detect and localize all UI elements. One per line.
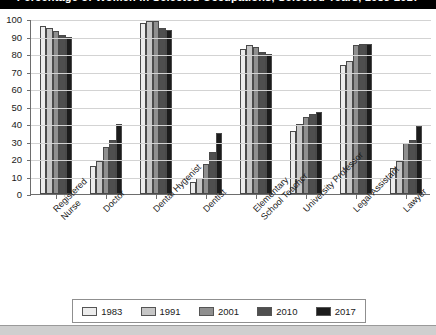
legend-label: 2001	[218, 306, 239, 317]
y-axis-tick-label: 0	[17, 190, 22, 200]
y-axis-tick-label: 50	[11, 103, 22, 113]
gridline	[31, 108, 431, 109]
legend-item[interactable]: 2001	[199, 306, 239, 317]
gridline	[31, 38, 431, 39]
y-axis-tick	[27, 73, 31, 74]
bar[interactable]	[66, 37, 72, 195]
gridline	[31, 178, 431, 179]
plot-wrapper: 0102030405060708090100	[0, 9, 436, 205]
y-axis-tick-label: 80	[11, 50, 22, 60]
gridline	[31, 73, 431, 74]
x-axis-tick	[406, 194, 407, 199]
bar[interactable]	[366, 44, 372, 195]
gridline	[31, 125, 431, 126]
legend-swatch-icon	[199, 307, 214, 316]
y-axis-tick-label: 10	[11, 173, 22, 183]
x-axis-tick	[256, 194, 257, 199]
gridline	[31, 20, 431, 21]
y-axis-tick-label: 60	[11, 85, 22, 95]
gridline	[31, 160, 431, 161]
y-axis-tick	[27, 178, 31, 179]
y-axis-labels: 0102030405060708090100	[0, 9, 26, 205]
y-axis-tick	[27, 143, 31, 144]
chart-title: Percentage of Women in Selected Occupati…	[0, 0, 436, 3]
legend-swatch-icon	[257, 307, 272, 316]
legend-label: 2017	[335, 306, 356, 317]
y-axis-tick	[27, 160, 31, 161]
legend-swatch-icon	[82, 307, 97, 316]
y-axis-tick	[27, 38, 31, 39]
legend-swatch-icon	[316, 307, 331, 316]
x-axis-tick	[356, 194, 357, 199]
y-axis-tick-label: 40	[11, 120, 22, 130]
legend-label: 1991	[160, 306, 181, 317]
bar-group	[231, 19, 281, 194]
chart-legend: 19831991200120102017	[72, 299, 366, 323]
y-axis-tick-label: 90	[11, 33, 22, 43]
x-axis-tick	[156, 194, 157, 199]
bar-group	[31, 19, 81, 194]
x-axis-tick	[306, 194, 307, 199]
bar[interactable]	[116, 124, 122, 194]
legend-label: 1983	[101, 306, 122, 317]
gridline	[31, 55, 431, 56]
bottom-border-strip	[0, 325, 436, 335]
bar[interactable]	[266, 54, 272, 194]
title-bar: Percentage of Women in Selected Occupati…	[0, 0, 436, 9]
gridline	[31, 143, 431, 144]
plot-area	[30, 20, 430, 195]
legend-swatch-icon	[141, 307, 156, 316]
y-axis-tick	[27, 195, 31, 196]
y-axis-tick	[27, 125, 31, 126]
y-axis-tick	[27, 20, 31, 21]
legend-item[interactable]: 1983	[82, 306, 122, 317]
gridline	[31, 90, 431, 91]
bar-group	[81, 19, 131, 194]
y-axis-tick	[27, 108, 31, 109]
x-axis-labels: RegisteredNurseDoctorDental HygenistDent…	[30, 205, 430, 291]
legend-label: 2010	[276, 306, 297, 317]
y-axis-tick-label: 100	[6, 15, 22, 25]
x-axis-tick	[106, 194, 107, 199]
legend-item[interactable]: 2010	[257, 306, 297, 317]
y-axis-tick-label: 30	[11, 138, 22, 148]
bar-groups	[31, 19, 431, 194]
legend-item[interactable]: 1991	[141, 306, 181, 317]
y-axis-tick-label: 70	[11, 68, 22, 78]
y-axis-tick	[27, 90, 31, 91]
x-axis-tick	[56, 194, 57, 199]
legend-item[interactable]: 2017	[316, 306, 356, 317]
y-axis-tick	[27, 55, 31, 56]
x-axis-tick	[206, 194, 207, 199]
bar-group	[131, 19, 181, 194]
y-axis-tick-label: 20	[11, 155, 22, 165]
